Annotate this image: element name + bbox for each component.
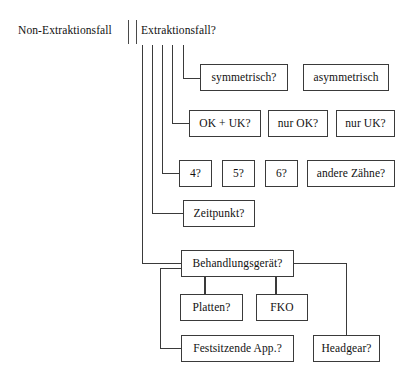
- connector-behandlung-to-fko: [275, 277, 277, 294]
- node-platten[interactable]: Platten?: [180, 294, 243, 321]
- node-headgear[interactable]: Headgear?: [313, 335, 380, 362]
- connector-left-bracket-vertical: [160, 268, 161, 348]
- node-zeitpunkt[interactable]: Zeitpunkt?: [183, 200, 255, 227]
- root-label-extraktionsfall: Extraktionsfall?: [141, 25, 216, 37]
- trunk-line-zeitpunkt: [152, 45, 153, 213]
- trunk-line-symmetrie: [183, 45, 184, 78]
- connector-to-vier: [162, 173, 179, 174]
- connector-to-festsitzende-app: [160, 348, 181, 349]
- connector-behandlung-left-stub: [160, 268, 182, 269]
- node-zahn-6[interactable]: 6?: [265, 160, 298, 187]
- node-zahn-5[interactable]: 5?: [222, 160, 255, 187]
- node-zahn-4[interactable]: 4?: [179, 160, 212, 187]
- node-nur-ok[interactable]: nur OK?: [268, 110, 328, 137]
- connector-behandlung-to-platten: [204, 277, 206, 294]
- connector-to-zeitpunkt: [152, 213, 183, 214]
- root-label-non-extraktionsfall: Non-Extraktionsfall: [18, 25, 112, 37]
- node-nur-uk[interactable]: nur UK?: [336, 110, 395, 137]
- connector-right-bracket-vertical: [346, 263, 347, 341]
- connector-to-behandlungsgeraet: [142, 263, 181, 264]
- connector-to-ok-uk: [172, 123, 189, 124]
- node-behandlungsgeraet[interactable]: Behandlungsgerät?: [181, 250, 294, 277]
- trunk-line-kiefer: [172, 45, 173, 123]
- root-divider-right: [136, 20, 137, 44]
- connector-behandlung-right-stub: [294, 263, 347, 264]
- connector-to-symmetrisch: [183, 78, 200, 79]
- trunk-line-behandlung: [142, 45, 143, 263]
- node-festsitzende-app[interactable]: Festsitzende App.?: [181, 335, 294, 362]
- node-ok-uk[interactable]: OK + UK?: [189, 110, 261, 137]
- node-symmetrisch[interactable]: symmetrisch?: [200, 64, 288, 91]
- node-asymmetrisch[interactable]: asymmetrisch: [303, 64, 389, 91]
- root-divider-left: [128, 20, 129, 44]
- node-andere-zaehne[interactable]: andere Zähne?: [307, 160, 395, 187]
- trunk-line-zaehne: [162, 45, 163, 173]
- node-fko[interactable]: FKO: [256, 294, 308, 321]
- decision-tree-diagram: Non-Extraktionsfall Extraktionsfall? sym…: [0, 0, 407, 377]
